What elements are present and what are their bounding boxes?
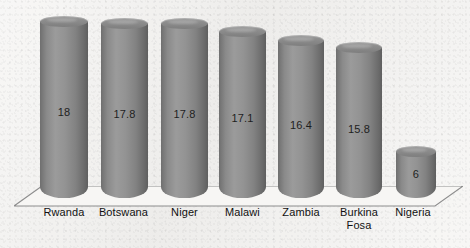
bar-value-label: 17.1	[219, 112, 266, 124]
bar-cylinder-cap	[396, 146, 436, 157]
category-label: Malawi	[209, 206, 276, 219]
bar-cylinder	[336, 42, 382, 198]
bar-cylinder-cap	[278, 35, 324, 46]
bar-value-label: 16.4	[278, 119, 324, 131]
category-label: Zambia	[268, 206, 334, 219]
category-label: Botswana	[90, 206, 157, 219]
bar-cylinder-cap	[101, 18, 148, 29]
bar-value-label: 17.8	[101, 108, 148, 120]
bar-cylinder-cap	[336, 42, 382, 53]
bar-value-label: 6	[396, 168, 436, 180]
category-label: Rwanda	[30, 206, 98, 219]
bar-cylinder	[278, 35, 324, 198]
cylinder-bar-chart: 1817.817.817.116.415.86 RwandaBotswanaNi…	[0, 0, 470, 248]
bar-cylinder-cap	[161, 18, 208, 29]
bar-value-label: 18	[40, 106, 88, 118]
bar-cylinder-cap	[40, 16, 88, 27]
plot-area: 1817.817.817.116.415.86 RwandaBotswanaNi…	[0, 0, 470, 248]
bar-value-label: 15.8	[336, 123, 382, 135]
bar-value-label: 17.8	[161, 108, 208, 120]
category-label: Nigeria	[383, 206, 443, 219]
category-label: Niger	[151, 206, 218, 219]
bar-cylinder-cap	[219, 26, 266, 37]
